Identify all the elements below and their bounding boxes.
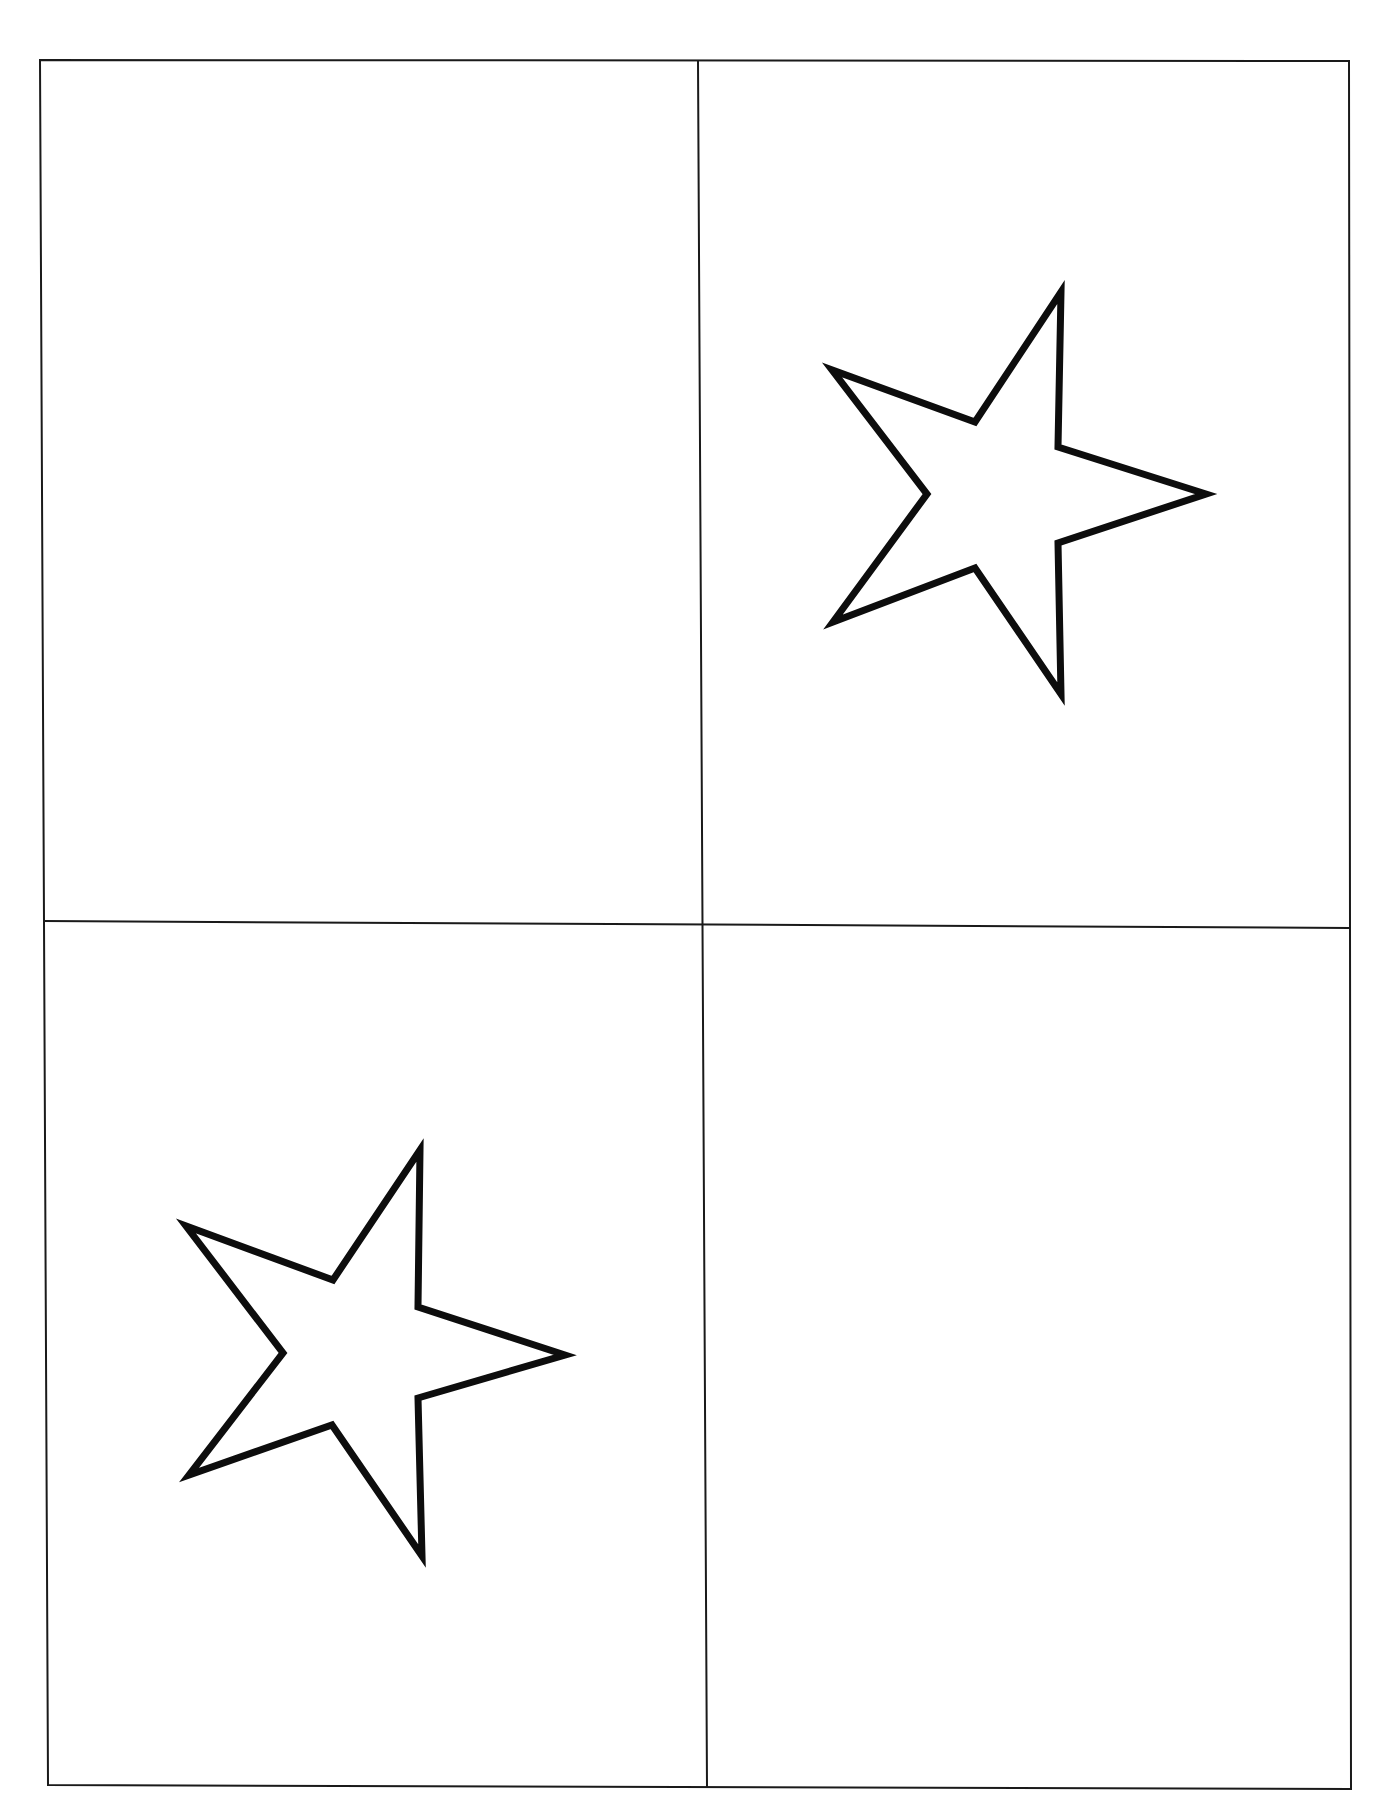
- quadrant-top-right: Quadrant 2 (top-right): star: [700, 62, 1348, 924]
- quadrant-bottom-left: Quadrant 3 (bottom-left): star: [46, 923, 703, 1785]
- worksheet-page: Quadrant 1 (top-left): empty Quadrant 2 …: [0, 0, 1387, 1808]
- quadrant-label: Quadrant 2 (top-right): star: [700, 62, 701, 63]
- quadrant-label: Quadrant 4 (bottom-right): empty: [706, 927, 707, 928]
- quadrant-label: Quadrant 1 (top-left): empty: [42, 62, 43, 63]
- quadrant-bottom-right: Quadrant 4 (bottom-right): empty: [706, 927, 1349, 1787]
- quadrant-label: Quadrant 3 (bottom-left): star: [46, 923, 47, 924]
- quadrant-top-left: Quadrant 1 (top-left): empty: [42, 62, 699, 922]
